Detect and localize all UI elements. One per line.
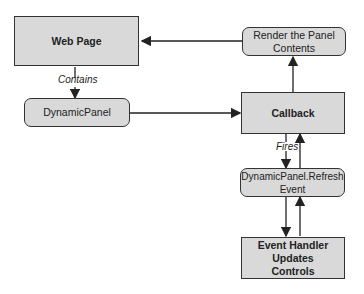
dynamic-panel-label: DynamicPanel [43,106,111,119]
refresh-event-label: DynamicPanel.Refresh Event [241,170,344,196]
event-handler-label: Event Handler Updates Controls [250,239,336,278]
fires-edge-label: Fires [276,141,298,152]
render-contents-label: Render the Panel Contents [249,29,339,55]
web-page-label: Web Page [52,35,102,48]
web-page-node: Web Page [14,16,139,66]
event-handler-node: Event Handler Updates Controls [241,237,345,279]
callback-node: Callback [241,92,345,134]
callback-label: Callback [271,107,314,120]
refresh-event-node: DynamicPanel.Refresh Event [240,168,345,197]
dynamic-panel-node: DynamicPanel [24,98,130,127]
render-contents-node: Render the Panel Contents [242,27,346,56]
contains-edge-label: Contains [58,74,97,85]
